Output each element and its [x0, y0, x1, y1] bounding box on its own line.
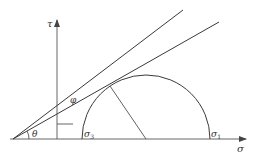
tau-label: τ — [47, 18, 53, 29]
mohr-circle-diagram: τ σ θ φ σ3 σ1 — [0, 0, 254, 159]
sigma1-label: σ1 — [211, 129, 221, 140]
sigma-label: σ — [237, 143, 245, 154]
theta-arc — [27, 131, 29, 139]
mohr-circle — [82, 75, 210, 139]
theta-label: θ — [32, 129, 38, 139]
sigma3-label: σ3 — [84, 129, 94, 140]
tangent-envelope-line — [13, 22, 219, 139]
upper-envelope-line — [13, 10, 183, 139]
radius-line — [110, 86, 146, 139]
phi-label: φ — [70, 95, 77, 105]
